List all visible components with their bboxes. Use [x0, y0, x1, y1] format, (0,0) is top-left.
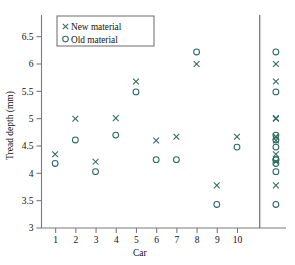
scatter-plot-figure: 33.544.555.566.512345678910CarTread dept…	[0, 0, 295, 265]
data-point-old-material	[234, 144, 240, 150]
y-tick-label: 5	[29, 114, 34, 124]
y-tick-label: 4	[29, 169, 34, 179]
data-point-new-material	[93, 159, 99, 165]
x-tick-label: 4	[114, 235, 119, 245]
y-tick-label: 6.5	[22, 32, 34, 42]
marginal-point-old-material	[273, 89, 279, 95]
x-tick-label: 1	[53, 235, 58, 245]
legend-entry-label: Old material	[71, 35, 118, 45]
x-tick-label: 10	[233, 235, 243, 245]
x-tick-label: 3	[94, 235, 99, 245]
x-tick-label: 6	[154, 235, 159, 245]
data-point-old-material	[194, 49, 200, 55]
x-axis-title: Car	[133, 248, 148, 258]
data-point-new-material	[234, 134, 240, 140]
data-point-old-material	[72, 137, 78, 143]
y-axis-title-text: Tread depth (mm)	[5, 91, 16, 160]
y-tick-label: 4.5	[22, 141, 34, 151]
marginal-point-new-material	[273, 182, 279, 188]
data-point-new-material	[153, 138, 159, 144]
marginal-point-new-material	[273, 115, 279, 121]
chart-canvas: 33.544.555.566.512345678910CarTread dept…	[0, 0, 295, 265]
data-point-old-material	[153, 157, 159, 163]
data-point-old-material	[113, 132, 119, 138]
data-point-old-material	[52, 161, 58, 167]
x-tick-label: 8	[195, 235, 200, 245]
y-tick-label: 5.5	[22, 87, 34, 97]
data-point-new-material	[214, 182, 220, 188]
data-point-new-material	[173, 134, 179, 140]
x-tick-label: 2	[73, 235, 78, 245]
y-axis-title: Tread depth (mm)	[5, 91, 16, 160]
marginal-point-old-material	[273, 202, 279, 208]
data-point-new-material	[133, 79, 139, 85]
data-point-new-material	[113, 115, 119, 121]
y-tick-label: 3.5	[22, 196, 34, 206]
data-point-new-material	[72, 116, 78, 122]
x-tick-label: 9	[215, 235, 220, 245]
marginal-point-old-material	[273, 49, 279, 55]
x-tick-label: 5	[134, 235, 139, 245]
data-point-new-material	[52, 151, 58, 157]
marginal-point-old-material	[273, 144, 279, 150]
y-tick-label: 3	[29, 223, 34, 233]
marginal-point-old-material	[273, 169, 279, 175]
marginal-point-new-material	[273, 151, 279, 157]
legend-entry-label: New material	[71, 22, 122, 32]
data-point-old-material	[214, 202, 220, 208]
x-tick-label: 7	[175, 235, 180, 245]
data-point-old-material	[93, 169, 99, 175]
marginal-point-new-material	[273, 61, 279, 67]
y-tick-label: 6	[29, 59, 34, 69]
data-point-old-material	[133, 89, 139, 95]
data-point-new-material	[194, 61, 200, 67]
data-point-old-material	[173, 157, 179, 163]
marginal-point-new-material	[273, 79, 279, 85]
